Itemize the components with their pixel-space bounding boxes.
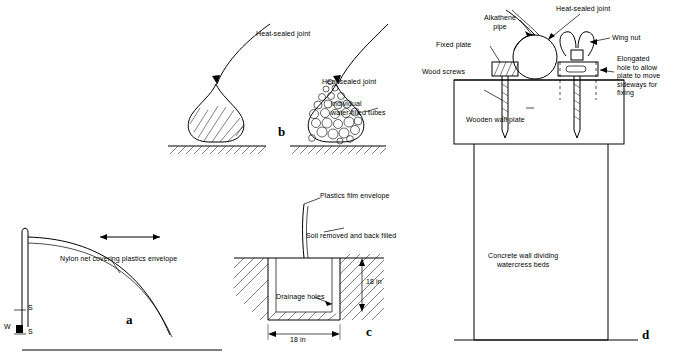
label-individual-water-filled-tubes: Individual water-filled tubes — [331, 100, 386, 117]
soil-hatch-left — [234, 258, 268, 320]
label-heat-sealed-joint-right: Heat-sealed joint — [322, 78, 376, 87]
label-depth-18in: 18 in — [366, 278, 382, 287]
trench-floor-hatch — [268, 312, 336, 320]
panel-letter-a: a — [126, 312, 133, 328]
label-wing-nut: Wing nut — [612, 34, 640, 43]
label-width-18in: 18 in — [290, 336, 306, 345]
label-wood-screws: Wood screws — [422, 68, 465, 77]
panel-letter-d: d — [642, 327, 649, 343]
ground-hatch-left — [170, 146, 266, 154]
label-w: W — [4, 323, 11, 332]
wing-nut — [560, 32, 594, 60]
label-heat-sealed-joint-left: Heat-sealed joint — [256, 30, 310, 39]
panel-c: Plastics film envelope Soil removed and … — [228, 184, 418, 358]
label-s-lower: S — [28, 328, 33, 337]
label-heat-sealed-joint-d: Heat-sealed joint — [556, 5, 610, 14]
panel-c-drawing — [228, 184, 418, 358]
elongated-hole — [566, 66, 586, 72]
panel-b: Heat-sealed joint Heat-sealed joint Indi… — [150, 8, 400, 173]
label-fixed-plate: Fixed plate — [436, 41, 471, 50]
label-plastics-film-envelope: Plastics film envelope — [320, 192, 390, 201]
panel-letter-c: c — [366, 324, 372, 340]
label-drainage-holes: Drainage holes — [276, 293, 325, 302]
panel-a: Nylon net covering plastics envelope S S… — [0, 215, 240, 358]
label-soil-removed: Soil removed and back filled — [306, 232, 396, 241]
label-wooden-wall-plate: Wooden wall plate — [466, 116, 525, 125]
ground-hatch-right — [292, 146, 386, 154]
label-elongated-hole: Elongated hole to allow plate to move si… — [617, 55, 660, 98]
panel-d: Alkathene pipe Heat-sealed joint Wing nu… — [408, 0, 684, 358]
label-concrete-wall: Concrete wall dividing watercress beds — [488, 252, 558, 269]
panel-letter-b: b — [278, 124, 285, 140]
label-s-upper: S — [28, 304, 33, 313]
panel-a-drawing — [0, 215, 240, 358]
label-nylon-net: Nylon net covering plastics envelope — [60, 255, 177, 264]
label-alkathene-pipe: Alkathene pipe — [484, 14, 516, 31]
panel-d-drawing — [408, 0, 684, 358]
left-bulb-hatching — [190, 106, 244, 142]
